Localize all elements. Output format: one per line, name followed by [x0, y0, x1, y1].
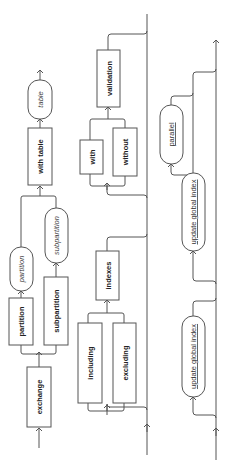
- parallel-label: parallel: [167, 122, 176, 147]
- subpartition-placeholder-label: subpartition: [52, 216, 61, 255]
- validation-label: validation: [105, 61, 114, 96]
- update-global-index-label-1: update global index: [189, 324, 198, 389]
- partition-keyword-label: partition: [17, 306, 26, 336]
- partition-placeholder-label: partition: [17, 256, 26, 284]
- update-global-index-label-2: update global index: [189, 179, 198, 244]
- excluding-label: excluding: [121, 345, 130, 380]
- table-placeholder-label: table: [36, 91, 45, 107]
- syntax-diagram: exchange partition partition subpartitio…: [0, 0, 235, 468]
- indexes-label: indexes: [104, 262, 113, 290]
- with-label: with: [88, 149, 97, 165]
- with-table-label: with table: [36, 139, 45, 175]
- without-label: without: [121, 138, 130, 166]
- exchange-label: exchange: [35, 380, 44, 415]
- subpartition-keyword-label: subpartition: [52, 289, 61, 333]
- including-label: including: [86, 346, 95, 380]
